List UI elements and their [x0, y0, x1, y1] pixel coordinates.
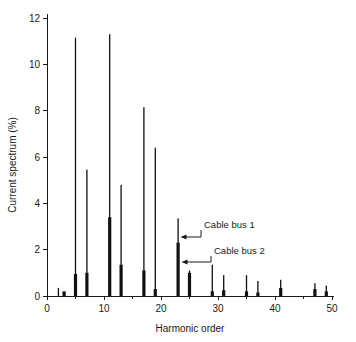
- chart-canvas: 02468101201020304050 Cable bus 1Cable bu…: [0, 0, 356, 342]
- y-tick-label: 0: [34, 291, 40, 302]
- bar-series-group: [58, 34, 328, 296]
- x-tick-label: 30: [212, 303, 224, 314]
- annotation-label: Cable bus 1: [204, 219, 255, 230]
- y-tick-label: 6: [34, 152, 40, 163]
- y-tick-label: 8: [34, 105, 40, 116]
- bar-cable-bus-1: [189, 271, 190, 296]
- bar-cable-bus-1: [58, 288, 59, 296]
- harmonic-spectrum-chart: 02468101201020304050 Cable bus 1Cable bu…: [0, 0, 356, 342]
- bar-cable-bus-1: [86, 170, 87, 296]
- x-tick-label: 0: [44, 303, 50, 314]
- x-tick-label: 40: [269, 303, 281, 314]
- bar-cable-bus-1: [143, 107, 144, 296]
- x-tick-label: 10: [98, 303, 110, 314]
- bar-cable-bus-1: [177, 218, 178, 296]
- y-tick-label: 4: [34, 198, 40, 209]
- x-tick-label: 20: [155, 303, 167, 314]
- bar-cable-bus-1: [155, 148, 156, 296]
- bar-cable-bus-1: [109, 34, 110, 296]
- bar-cable-bus-1: [223, 275, 224, 296]
- y-tick-label: 10: [29, 59, 41, 70]
- annotations-group: Cable bus 1Cable bus 2: [181, 219, 265, 265]
- bar-cable-bus-1: [212, 265, 213, 296]
- bar-cable-bus-1: [280, 280, 281, 296]
- bar-cable-bus-1: [314, 283, 315, 296]
- annotation-label: Cable bus 2: [214, 245, 265, 256]
- y-axis-title: Current spectrum (%): [7, 117, 18, 213]
- bar-cable-bus-1: [257, 281, 258, 296]
- x-tick-label: 50: [326, 303, 338, 314]
- y-tick-label: 12: [29, 13, 41, 24]
- bar-cable-bus-1: [326, 286, 327, 296]
- bar-cable-bus-1: [120, 185, 121, 296]
- y-tick-label: 2: [34, 244, 40, 255]
- bar-cable-bus-2: [63, 291, 66, 296]
- annotation-arrow-head: [182, 259, 188, 264]
- x-axis-title: Harmonic order: [156, 323, 226, 334]
- axes: [47, 14, 334, 296]
- bar-cable-bus-1: [246, 275, 247, 296]
- bar-cable-bus-1: [75, 38, 76, 296]
- annotation-arrow-head: [181, 234, 187, 239]
